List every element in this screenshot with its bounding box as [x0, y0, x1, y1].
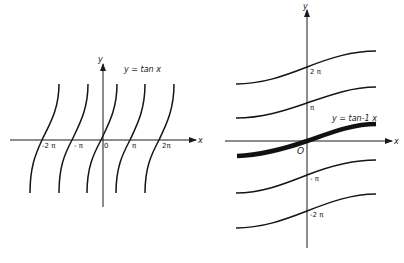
tan-branch-neg-pi	[59, 84, 88, 193]
arctan-branch-neg-pi	[236, 160, 376, 193]
tick-label-pi: π	[132, 142, 137, 150]
tick-label-neg-2pi: -2 π	[42, 142, 56, 150]
figure-canvas: x y y = tan x -2 π - π 0 π 2π x y y = ta…	[0, 0, 404, 263]
y-axis-label: y	[302, 2, 308, 11]
tan-graph: x y y = tan x -2 π - π 0 π 2π	[10, 55, 203, 207]
graph-title: y = tan x	[123, 65, 161, 74]
tick-label-2pi: 2π	[162, 142, 171, 150]
arctan-branch-2pi	[236, 51, 376, 84]
graph-title: y = tan-1 x	[331, 114, 377, 123]
tick-label-2pi: 2 π	[310, 68, 322, 76]
tan-branch-2pi	[145, 84, 174, 193]
y-axis-label: y	[97, 55, 103, 64]
arctan-branch-neg-2pi	[236, 194, 376, 228]
tick-label-neg-pi: - π	[74, 142, 84, 150]
tick-label-neg-2pi: -2 π	[310, 211, 324, 219]
tan-branch-neg-2pi	[30, 84, 59, 193]
x-axis-label: x	[393, 137, 399, 146]
origin-label: O	[297, 146, 304, 156]
x-axis-label: x	[197, 136, 203, 145]
tan-branch-pi	[116, 84, 145, 193]
tick-label-neg-pi: - π	[310, 175, 320, 183]
tan-branch-zero	[87, 84, 117, 193]
arctan-graph: x y y = tan-1 x O 2 π π - π -2 π	[225, 2, 399, 248]
origin-label: 0	[104, 142, 108, 150]
tick-label-pi: π	[310, 104, 315, 112]
